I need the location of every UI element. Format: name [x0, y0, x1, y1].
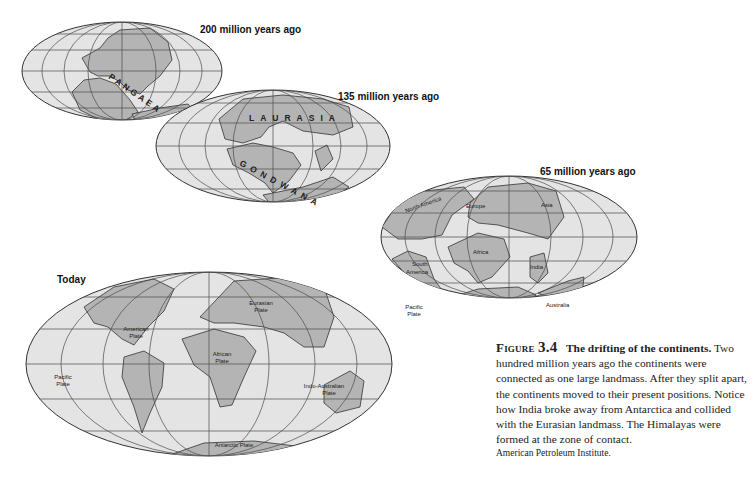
map-65-million-years-ago: North America Europe Asia Africa South A…: [378, 173, 640, 301]
indo-australian-plate-label-1: Indo-Australian: [304, 383, 344, 389]
indo-australian-plate-label-2: Plate: [322, 390, 336, 396]
south-america-label-1: South: [412, 261, 428, 267]
india-label: India: [530, 264, 544, 270]
svg-text:Plate: Plate: [407, 311, 421, 317]
svg-text:Pacific: Pacific: [405, 304, 423, 310]
australia-label: Australia: [546, 302, 570, 308]
map-135-million-years-ago: LAURASIA GONDWANA: [153, 87, 393, 205]
south-america-label-2: America: [406, 269, 429, 275]
age-label-200: 200 million years ago: [200, 24, 301, 35]
pacific-plate-west-label-2: Plate: [56, 381, 70, 387]
figure-title: The drifting of the continents.: [566, 342, 711, 354]
age-label-135: 135 million years ago: [338, 91, 439, 102]
eurasian-plate-label-1: Eurasian: [249, 300, 273, 306]
american-plate-label-2: Plate: [129, 333, 143, 339]
asia-label: Asia: [541, 202, 553, 208]
pacific-plate-east-label: Pacific Plate: [394, 290, 454, 330]
african-plate-label-1: African: [213, 351, 232, 357]
figure-number: Figure 3.4: [496, 340, 557, 355]
age-label-65: 65 million years ago: [540, 166, 636, 177]
figure-credit: American Petroleum Institute.: [496, 447, 751, 459]
europe-label: Europe: [466, 203, 486, 209]
american-plate-label-1: American: [123, 326, 148, 332]
figure-caption: Figure 3.4 The drifting of the continent…: [496, 340, 751, 459]
african-plate-label-2: Plate: [215, 358, 229, 364]
laurasia-label: LAURASIA: [249, 113, 341, 123]
antarctic-plate-label: Antarctic Plate: [215, 442, 254, 448]
pacific-plate-west-label-1: Pacific: [54, 374, 72, 380]
africa-label: Africa: [473, 249, 489, 255]
map-today: Eurasian Plate American Plate African Pl…: [24, 267, 394, 461]
eurasian-plate-label-2: Plate: [254, 307, 268, 313]
age-label-today: Today: [57, 274, 86, 285]
figure-caption-body: Two hundred million years ago the contin…: [496, 342, 747, 445]
